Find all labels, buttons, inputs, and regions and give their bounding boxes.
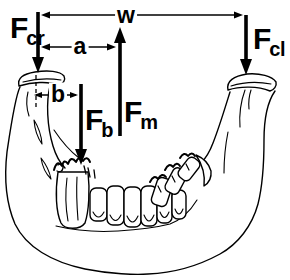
- ramus-detail-mark: [34, 120, 42, 144]
- left-molar: [54, 158, 95, 228]
- force-label-fb: Fb: [85, 105, 113, 140]
- mandible-force-diagram: Fcr Fcl Fm Fb w a b: [0, 0, 290, 280]
- tooth: [124, 187, 141, 227]
- force-label-fcl: Fcl: [253, 24, 285, 59]
- ramus-detail-mark: [41, 158, 51, 179]
- force-symbol: F: [10, 11, 27, 44]
- force-symbol: F: [124, 95, 141, 128]
- arrowhead-up: [114, 27, 126, 43]
- arrowhead-right: [107, 44, 116, 51]
- dimension-label-b: b: [49, 83, 67, 106]
- force-subscript: cl: [269, 38, 285, 60]
- dimension-label-w: w: [115, 4, 137, 27]
- force-subscript: b: [101, 119, 113, 141]
- tooth: [107, 186, 124, 225]
- force-label-fm: Fm: [124, 97, 158, 132]
- force-arrow-fcl: [240, 15, 252, 75]
- force-symbol: F: [85, 103, 102, 136]
- arrowhead-right: [70, 92, 78, 98]
- force-label-fcr: Fcr: [10, 13, 44, 48]
- tooth: [90, 188, 107, 221]
- force-subscript: cr: [26, 27, 44, 49]
- arrowhead-right: [234, 12, 243, 19]
- arrowhead-down: [240, 59, 252, 75]
- arrowhead-left: [34, 92, 42, 98]
- force-symbol: F: [253, 22, 270, 55]
- force-subscript: m: [140, 111, 157, 133]
- dimension-w: [41, 12, 243, 19]
- retromolar-crescent: [196, 155, 211, 186]
- dimension-label-a: a: [72, 35, 89, 58]
